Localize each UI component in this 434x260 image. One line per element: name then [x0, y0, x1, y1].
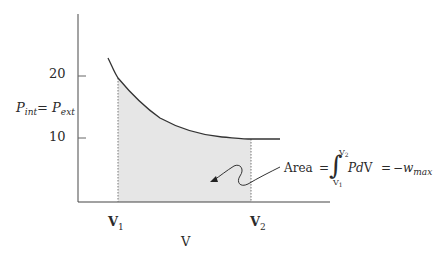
y-label-sub-int: int: [25, 107, 37, 117]
upper-limit: V2: [339, 148, 349, 158]
lower-limit: V1: [333, 178, 343, 188]
shaded-area: [118, 78, 251, 202]
y-label-eq: =: [37, 100, 52, 115]
v1-text: V: [108, 214, 118, 229]
y-tick-label-20: 20: [49, 66, 66, 81]
x-axis-label: V: [181, 234, 190, 249]
area-eq2: =: [381, 161, 391, 175]
integrand-v: V: [364, 161, 373, 175]
v2-sub: 2: [260, 222, 266, 232]
v2-text: V: [250, 214, 260, 229]
result-sub-max: max: [413, 167, 432, 177]
y-tick-label-10: 10: [49, 129, 66, 144]
integrand-pd: Pd: [348, 161, 364, 175]
v1-sub: 1: [118, 222, 124, 232]
upper-limit-sub: 2: [345, 151, 349, 158]
area-eq1: =: [319, 161, 329, 175]
result: −wmax: [393, 161, 432, 177]
v2-label: V2: [250, 214, 266, 232]
y-axis-label: Pint= Pext: [16, 100, 75, 117]
y-label-p2: P: [52, 100, 61, 115]
lower-limit-sub: 1: [339, 181, 343, 188]
y-label-p: P: [16, 100, 25, 115]
integrand: PdV: [348, 161, 372, 175]
result-w: −w: [393, 161, 413, 175]
area-word: Area: [284, 161, 313, 175]
v1-label: V1: [108, 214, 124, 232]
y-label-sub-ext: ext: [61, 107, 75, 117]
